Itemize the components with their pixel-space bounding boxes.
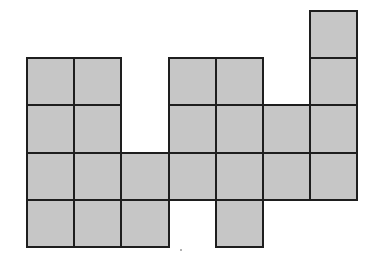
tile-r1-c4 <box>215 57 264 106</box>
polyomino-diagram <box>0 0 375 265</box>
tile-r4-c1 <box>73 199 122 248</box>
tile-r0-c6 <box>309 10 358 59</box>
tile-r3-c3 <box>168 152 217 201</box>
tile-r1-c3 <box>168 57 217 106</box>
tile-r2-c1 <box>73 104 122 154</box>
tile-r2-c3 <box>168 104 217 154</box>
tile-r3-c1 <box>73 152 122 201</box>
tile-r2-c6 <box>309 104 358 154</box>
tile-r4-c4 <box>215 199 264 248</box>
tile-r2-c0 <box>26 104 75 154</box>
tile-r3-c5 <box>262 152 311 201</box>
tile-r4-c2 <box>120 199 170 248</box>
tile-r2-c5 <box>262 104 311 154</box>
tile-r1-c1 <box>73 57 122 106</box>
stray-dot <box>180 249 182 251</box>
tile-r2-c4 <box>215 104 264 154</box>
tile-r4-c0 <box>26 199 75 248</box>
tile-r1-c6 <box>309 57 358 106</box>
tile-r3-c2 <box>120 152 170 201</box>
tile-r3-c0 <box>26 152 75 201</box>
tile-r3-c4 <box>215 152 264 201</box>
tile-r1-c0 <box>26 57 75 106</box>
tile-r3-c6 <box>309 152 358 201</box>
